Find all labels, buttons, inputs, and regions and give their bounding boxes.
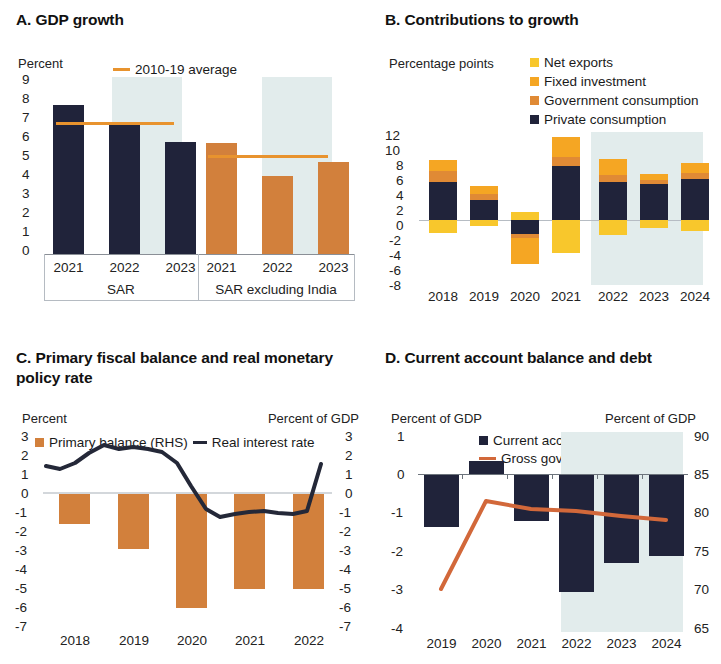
x-tick-2018: 2018 [48, 633, 102, 648]
y-tick-9: 9 [22, 72, 30, 87]
x-tick-sar-ex-india-2023: 2023 [308, 260, 359, 275]
stack-2024-net-exports [681, 220, 709, 231]
y-tick-0: 0 [396, 218, 404, 233]
stack-2022-government-consumption [599, 175, 627, 182]
y-tick-minus-2: -2 [389, 233, 401, 248]
panel-d-line-chart [383, 340, 721, 664]
stack-2019-private-consumption [470, 200, 498, 220]
x-tick-2019: 2019 [107, 633, 161, 648]
y-tick-6: 6 [22, 129, 30, 144]
stack-2024-private-consumption [681, 179, 709, 220]
panel-a-plot: 9 8 7 6 5 4 3 2 1 0 2021 2022 2023 2021 … [8, 4, 363, 304]
stack-2018-fixed-investment [429, 160, 457, 171]
x-tick-2024: 2024 [640, 636, 693, 651]
stack-2021-fixed-investment [552, 137, 580, 157]
bar-sar-ex-india-2022 [262, 176, 293, 254]
panel-d-plot: 1 0 -1 -2 -3 -4 90 85 80 75 70 65 2019 [383, 340, 721, 664]
stack-2020-fixed-investment [511, 238, 539, 264]
x-tick-2021: 2021 [223, 633, 277, 648]
real-interest-rate-line [46, 445, 321, 517]
stack-2023-net-exports [640, 220, 668, 228]
bar-sar-ex-india-2023 [318, 162, 349, 254]
bar-sar-2022 [109, 123, 140, 254]
stack-2018-net-exports [429, 220, 457, 233]
y-tick-8: 8 [22, 91, 30, 106]
stack-2022-fixed-investment [599, 159, 627, 175]
stack-2019-fixed-investment [470, 186, 498, 194]
panel-a-gdp-growth: A. GDP growth Percent 2010-19 average 9 … [8, 4, 363, 334]
stack-2021-net-exports [552, 220, 580, 253]
y-tick-12: 12 [385, 128, 400, 143]
stack-2021-government-consumption [552, 157, 580, 166]
y-tick-minus-8: -8 [389, 278, 401, 293]
stack-2018-government-consumption [429, 171, 457, 182]
y-tick-2: 2 [396, 203, 404, 218]
panel-c-line-chart [8, 340, 363, 664]
average-line-sar [56, 122, 174, 125]
x-tick-sar-ex-india-2022: 2022 [252, 260, 303, 275]
y-tick-5: 5 [22, 148, 30, 163]
y-tick-2: 2 [22, 205, 30, 220]
y-tick-10: 10 [385, 143, 400, 158]
stack-2020-private-consumption [511, 220, 539, 234]
panel-c-plot: 3 2 1 0 -1 -2 -3 -4 -5 -6 -7 3 2 1 0 -1 … [8, 340, 363, 664]
x-tick-2024: 2024 [669, 289, 721, 304]
bar-sar-2021 [53, 105, 84, 254]
y-tick-6: 6 [396, 173, 404, 188]
stack-2022-private-consumption [599, 182, 627, 220]
x-tick-sar-ex-india-2021: 2021 [196, 260, 247, 275]
panel-c-primary-fiscal-balance: C. Primary fiscal balance and real monet… [8, 340, 363, 664]
y-tick-1: 1 [22, 224, 30, 239]
gross-government-debt-line [441, 501, 666, 589]
y-tick-3: 3 [22, 186, 30, 201]
x-tick-2020: 2020 [165, 633, 219, 648]
x-tick-sar-2021: 2021 [43, 260, 94, 275]
y-tick-0: 0 [22, 243, 30, 258]
y-tick-minus-6: -6 [389, 263, 401, 278]
stack-2020-net-exports [511, 212, 539, 220]
y-tick-8: 8 [396, 158, 404, 173]
group-label-sar: SAR [44, 282, 198, 297]
panel-d-current-account-balance-and-debt: D. Current account balance and debt Perc… [383, 340, 721, 664]
group-label-sar-excluding-india: SAR excluding India [199, 282, 353, 297]
stack-2023-private-consumption [640, 184, 668, 220]
x-tick-sar-2022: 2022 [99, 260, 150, 275]
y-tick-minus-4: -4 [389, 248, 401, 263]
stack-2024-fixed-investment [681, 163, 709, 173]
stack-2018-private-consumption [429, 182, 457, 220]
x-tick-2022: 2022 [282, 633, 336, 648]
panel-b-plot: 12 10 8 6 4 2 0 -2 -4 -6 -8 [383, 4, 721, 304]
stack-2019-net-exports [470, 220, 498, 226]
bar-sar-ex-india-2021 [206, 143, 237, 254]
average-line-sar-ex-india [208, 155, 328, 158]
y-tick-4: 4 [396, 188, 404, 203]
stack-2022-net-exports [599, 220, 627, 235]
x-tick-2021: 2021 [540, 289, 592, 304]
y-tick-4: 4 [22, 167, 30, 182]
panel-b-contributions-to-growth: B. Contributions to growth Percentage po… [383, 4, 721, 334]
stack-2021-private-consumption [552, 166, 580, 220]
bar-sar-2023 [165, 142, 196, 254]
y-tick-7: 7 [22, 110, 30, 125]
